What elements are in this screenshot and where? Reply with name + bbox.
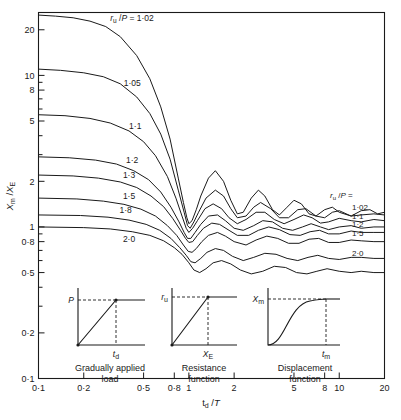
legend-label: 1·5 [352, 229, 364, 238]
data-curve [39, 115, 385, 233]
inset1-x-label: td [113, 349, 119, 360]
inset-gradually-applied-load: P td Gradually applied load [68, 288, 145, 384]
y-tick-label: 5 [29, 116, 34, 126]
curve-label: 1·3 [123, 170, 136, 180]
y-tick-label: 10 [24, 71, 34, 81]
y-tick-label: 0·5 [21, 268, 34, 278]
y-axis-ticks: 0·10·20·50·812581020 [21, 25, 44, 384]
figure-container: 0·10·20·50·812581020 0·10·20·50·81258102… [0, 0, 401, 420]
inset2-x-label: XE [202, 349, 214, 360]
inset-resistance-function: ru XE Resistance function [161, 288, 237, 384]
x-tick-label: 8 [322, 383, 327, 393]
inset-displacement-function: Xm tm Displacement function [251, 288, 340, 384]
x-axis-title: td /T [202, 397, 221, 409]
legend-title: ru /P = [330, 191, 353, 201]
curve-label: 1·5 [123, 191, 136, 201]
inset3-x-label: tm [322, 349, 330, 360]
y-tick-label: 1 [29, 222, 34, 232]
x-tick-label: 0·5 [137, 383, 150, 393]
legend-label: 1·02 [352, 203, 369, 212]
y-tick-label: 20 [24, 25, 34, 35]
curve-label: 1·1 [129, 121, 142, 131]
curve-label: 2·0 [123, 234, 136, 244]
curve-label: 1·05 [124, 78, 141, 88]
inset2-y-label: ru [161, 292, 168, 303]
data-curve [39, 175, 385, 242]
curve-group [39, 15, 385, 274]
y-axis-title: Xm /XE [4, 181, 16, 211]
y-tick-label: 8 [29, 85, 34, 95]
legend-label: 1·2 [352, 220, 364, 229]
y-tick-label: 0·2 [21, 328, 34, 338]
data-curve [39, 215, 385, 263]
inset1-caption-line1: Gradually applied [75, 363, 145, 373]
inset3-caption-line2: function [289, 374, 321, 384]
y-tick-label: 0·8 [21, 237, 34, 247]
x-tick-label: 0·8 [168, 383, 181, 393]
x-tick-label: 1 [186, 383, 191, 393]
x-tick-label: 0·2 [77, 383, 90, 393]
x-tick-label: 2 [232, 383, 237, 393]
legend-group: ru /P =1·021·11·21·52·0 [330, 191, 369, 258]
y-tick-label: 2 [29, 177, 34, 187]
inset3-y-label: Xm [251, 294, 264, 305]
chart-svg: 0·10·20·50·812581020 0·10·20·50·81258102… [0, 0, 401, 420]
inset1-y-label: P [68, 295, 74, 305]
x-tick-label: 10 [334, 383, 344, 393]
curve-label: 1·2 [126, 155, 139, 165]
figure-bottom-caption [4, 410, 401, 420]
legend-label: 2·0 [352, 249, 364, 258]
data-curve [39, 198, 385, 252]
curve-label: 1·8 [120, 205, 133, 215]
inset1-caption-line2: load [101, 374, 118, 384]
inset2-caption-line2: function [188, 374, 220, 384]
curve-label: ru /P = 1·02 [110, 13, 154, 24]
inset3-caption-line1: Displacement [278, 363, 333, 373]
x-tick-label: 5 [291, 383, 296, 393]
x-tick-label: 20 [379, 383, 389, 393]
inset2-caption-line1: Resistance [182, 363, 227, 373]
curve-label-group: ru /P = 1·021·051·11·21·31·51·82·0 [110, 13, 154, 244]
x-tick-label: 0·1 [32, 383, 45, 393]
